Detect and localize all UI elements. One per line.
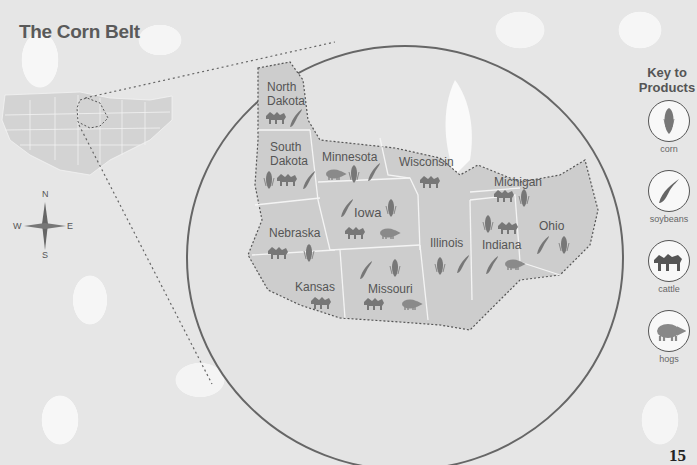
hogs-icon: [505, 260, 524, 271]
corn-icon: [304, 244, 314, 262]
corn-icon: [559, 236, 569, 254]
corn-icon: [390, 259, 400, 277]
hogs-icon: [326, 170, 345, 181]
soybeans-icon: [341, 199, 353, 217]
cattle-icon: [652, 246, 686, 276]
hogs-icon: [652, 316, 686, 346]
key-item-hogs: hogs: [641, 310, 697, 364]
soybeans-icon: [486, 256, 498, 274]
corn-icon: [483, 215, 493, 233]
key-item-corn: corn: [641, 100, 697, 154]
corn-icon: [519, 189, 529, 207]
hogs-icon: [380, 229, 399, 240]
hogs-icon: [402, 300, 421, 311]
cattle-icon: [277, 174, 297, 186]
cattle-icon: [494, 190, 514, 202]
cattle-icon: [364, 298, 384, 310]
key-item-cattle: cattle: [641, 240, 697, 294]
corn-icon: [386, 199, 396, 217]
cattle-icon: [498, 222, 518, 234]
corn-icon: [654, 106, 684, 136]
soybeans-icon: [290, 109, 302, 127]
key-item-soybeans: soybeans: [641, 170, 697, 224]
cattle-icon: [268, 247, 288, 259]
corn-icon: [435, 257, 445, 275]
cattle-icon: [311, 297, 331, 309]
product-icons-layer: [0, 0, 697, 465]
soybeans-icon: [360, 261, 372, 279]
corn-icon: [349, 165, 359, 183]
soybeans-icon: [303, 171, 315, 189]
corn-icon: [264, 171, 274, 189]
soybeans-icon: [368, 163, 380, 181]
cattle-icon: [266, 112, 286, 124]
soybeans-icon: [654, 176, 684, 206]
soybeans-icon: [457, 255, 469, 273]
page-number: 15: [669, 446, 686, 465]
cattle-icon: [420, 176, 440, 188]
key-title: Key toProducts: [636, 65, 697, 95]
soybeans-icon: [537, 236, 549, 254]
cattle-icon: [345, 227, 365, 239]
